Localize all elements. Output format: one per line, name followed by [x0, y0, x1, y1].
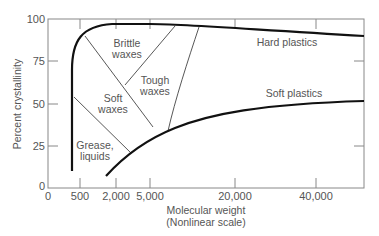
y-tick-labels: 100 75 50 25 0 — [27, 13, 45, 192]
y-axis-title: Percent crystallinity — [11, 58, 23, 149]
x-axis-title-line2: (Nonlinear scale) — [166, 216, 245, 228]
region-labels: Brittle waxes Tough waxes Soft waxes Gre… — [76, 36, 322, 162]
label-tough-waxes-2: waxes — [139, 85, 170, 97]
y-tick-label: 100 — [27, 13, 45, 25]
label-brittle-waxes-2: waxes — [111, 48, 142, 60]
y-tick-label: 75 — [33, 55, 45, 67]
y-tick-label: 25 — [33, 140, 45, 152]
x-tick-label: 40,000 — [299, 190, 333, 202]
x-tick-label: 2,000 — [102, 190, 130, 202]
label-soft-waxes-2: waxes — [97, 103, 128, 115]
crystallinity-chart: 100 75 50 25 0 0 500 2,000 5,000 20,000 … — [0, 0, 379, 236]
x-axis-title-line1: Molecular weight — [167, 204, 246, 216]
y-tick-label: 50 — [33, 98, 45, 110]
x-tick-labels: 0 500 2,000 5,000 20,000 40,000 — [45, 190, 333, 202]
x-tick-label: 5,000 — [136, 190, 164, 202]
x-tick-label: 0 — [45, 190, 51, 202]
tough-hard-plastics-boundary — [168, 27, 199, 131]
label-grease-liquids-2: liquids — [80, 150, 110, 162]
lower-crystallinity-curve — [106, 101, 364, 176]
x-tick-label: 20,000 — [218, 190, 252, 202]
label-soft-plastics: Soft plastics — [266, 87, 323, 99]
x-tick-label: 500 — [71, 190, 89, 202]
label-hard-plastics: Hard plastics — [257, 36, 318, 48]
